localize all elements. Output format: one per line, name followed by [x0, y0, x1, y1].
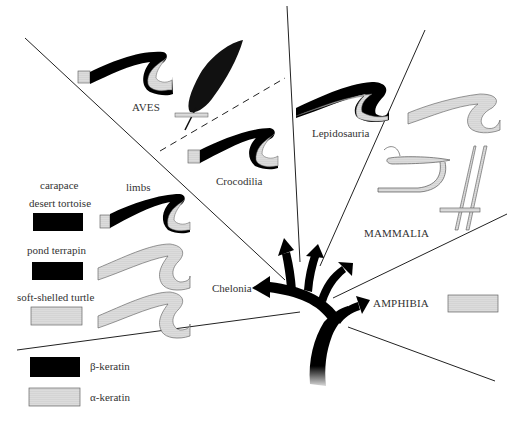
claw-icon: [378, 147, 450, 192]
desert-tortoise-limb-icon: [100, 194, 190, 233]
clade-label-mammalia: MAMMALIA: [364, 228, 429, 239]
soft-shelled-turtle-limb-icon: [98, 292, 190, 338]
amphibia-skin-swatch: [448, 295, 498, 312]
pond-terrapin-limb-icon: [98, 244, 190, 290]
clade-label-lepidosauria: Lepidosauria: [312, 128, 369, 139]
row-label-soft-shelled-turtle: soft-shelled turtle: [17, 292, 94, 303]
clade-label-amphibia: AMPHIBIA: [373, 298, 429, 309]
mammalia-scale-icon: [408, 94, 500, 133]
divider-amphibia-bottom: [348, 327, 495, 381]
aves-scale-icon: [78, 52, 173, 96]
legend-alpha-keratin-swatch: [29, 388, 80, 406]
feather-icon: [175, 40, 243, 130]
divider-crocodilia-lepidosauria: [287, 6, 300, 262]
hair-icon: [440, 146, 487, 230]
column-header-carapace: carapace: [40, 180, 78, 191]
row-label-desert-tortoise: desert tortoise: [29, 198, 91, 209]
keratin-phylogeny-diagram: [0, 0, 525, 428]
sector-dividers: [17, 6, 507, 381]
legend-label-alpha-keratin: α-keratin: [90, 392, 130, 403]
legend-beta-keratin-swatch: [30, 357, 80, 377]
soft-shelled-turtle-carapace-swatch: [31, 307, 82, 325]
clade-label-aves: AVES: [132, 102, 160, 113]
legend-label-beta-keratin: β-keratin: [90, 361, 130, 372]
clade-label-crocodilia: Crocodilia: [216, 176, 262, 187]
phylogeny-tree-icon: [252, 238, 370, 386]
row-label-pond-terrapin: pond terrapin: [27, 245, 86, 256]
crocodilia-scale-icon: [188, 128, 278, 169]
desert-tortoise-carapace-swatch: [33, 213, 83, 231]
clade-label-chelonia: Chelonia: [212, 283, 252, 294]
pond-terrapin-carapace-swatch: [32, 262, 83, 280]
column-header-limbs: limbs: [126, 182, 150, 193]
lepidosauria-scale-icon: [296, 82, 389, 122]
